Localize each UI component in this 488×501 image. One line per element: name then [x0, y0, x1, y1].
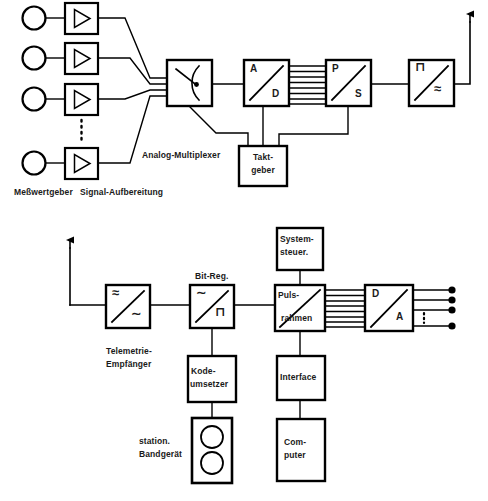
- da-converter-bottom-letter: A: [396, 312, 403, 323]
- frame-sync-label-line1: Puls-: [278, 290, 299, 301]
- tape-unit-caption-line2: Bandgerät: [139, 449, 182, 460]
- code-converter-label-line2: umsetzer: [190, 379, 228, 390]
- modulator-pulse-icon: ⊓: [415, 62, 425, 73]
- computer-label-line1: Com-: [284, 437, 306, 448]
- clock-distribution-wires: [189, 106, 348, 146]
- parallel-bus-bottom: [325, 290, 365, 327]
- clock-generator-label-line2: geber: [249, 165, 277, 176]
- receiver-carrier-icon: ≈: [112, 288, 119, 299]
- clock-generator-label-line1: Takt-: [249, 152, 277, 163]
- ps-converter-bottom-letter: S: [355, 89, 362, 100]
- receive-antenna-feed: [70, 240, 106, 305]
- receiver-caption-line2: Empfänger: [106, 359, 151, 370]
- da-converter-top-letter: D: [372, 289, 379, 300]
- bit-regenerator-caption: Bit-Reg.: [195, 271, 228, 282]
- tape-unit-box: [192, 418, 232, 483]
- interface-label: Interface: [280, 372, 316, 383]
- block-diagram-svg: [0, 0, 488, 501]
- tape-unit-caption-line1: station.: [139, 436, 170, 447]
- signal-conditioning-caption: Signal-Aufbereitung: [80, 187, 163, 198]
- receiver-caption-line1: Telemetrie-: [106, 346, 152, 357]
- analog-output-terminals: [448, 286, 455, 329]
- ad-converter-bottom-letter: D: [272, 89, 279, 100]
- transmit-antenna-feed: [454, 14, 470, 84]
- bitreg-pulse-icon: ⊓: [215, 307, 225, 318]
- figure-canvas: A D P S ⊓ ≈ Takt- geber ≈ ∼ ∼ ⊓ D A Syst…: [0, 0, 488, 501]
- system-control-label-line2: steuer.: [280, 247, 308, 258]
- parallel-bus-top: [289, 66, 326, 104]
- code-converter-label-line1: Kode-: [191, 366, 216, 377]
- ad-converter-top-letter: A: [250, 64, 257, 75]
- system-control-label-line1: System-: [280, 234, 314, 245]
- analog-output-lines: [413, 290, 452, 326]
- bitreg-sine-icon: ∼: [196, 288, 207, 299]
- modulator-carrier-icon: ≈: [434, 84, 441, 95]
- amplifier-boxes: [65, 3, 98, 179]
- sensors-caption: Meßwertgeber: [14, 187, 73, 198]
- analog-multiplexer-caption: Analog-Multiplexer: [142, 150, 220, 161]
- computer-label-line2: puter: [284, 450, 306, 461]
- ps-converter-top-letter: P: [332, 64, 339, 75]
- receiver-baseband-icon: ∼: [131, 309, 142, 320]
- sensor-to-amp-leads: [46, 18, 66, 163]
- sensor-symbols: [23, 7, 46, 175]
- frame-sync-label-line2: rahmen: [281, 313, 312, 324]
- amp-to-multiplexer-wires: [98, 18, 167, 163]
- analog-multiplexer-box: [167, 60, 212, 106]
